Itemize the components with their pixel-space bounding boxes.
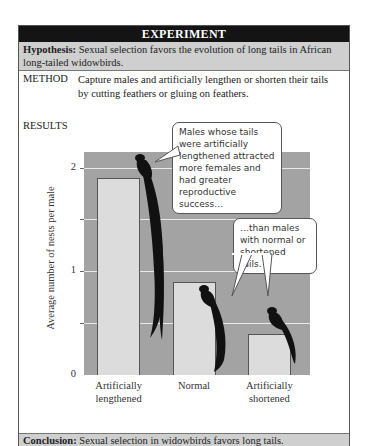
results-label: RESULTS	[23, 120, 68, 131]
callout-normal-shortened: …than males with normal or shortened tai…	[233, 218, 317, 274]
callout-lengthened: Males whose tails were artificially leng…	[172, 122, 282, 214]
hypothesis-box: Hypothesis: Sexual selection favors the …	[19, 42, 349, 71]
x-tick-label: Artificiallyshortened	[229, 379, 309, 405]
y-tick-label: 2	[62, 161, 76, 172]
x-tick-label: Artificiallylengthened	[79, 379, 159, 405]
y-tick-mark	[80, 168, 84, 169]
bar-normal	[173, 282, 216, 375]
y-tick-label: 1	[62, 264, 76, 275]
y-tick-mark	[80, 323, 84, 324]
y-tick-mark	[80, 219, 84, 220]
method-label: METHOD	[23, 73, 68, 84]
bar-artificially-shortened	[248, 334, 291, 375]
figure-title: EXPERIMENT	[19, 26, 349, 42]
hypothesis-label: Hypothesis:	[23, 44, 76, 55]
y-tick-mark	[80, 271, 84, 272]
conclusion-box: Conclusion: Sexual selection in widowbir…	[19, 433, 349, 446]
y-tick-label: 0	[62, 368, 76, 379]
bar-artificially-lengthened	[97, 178, 140, 375]
x-tick-label: Normal	[154, 379, 234, 405]
y-axis-label: Average number of nests per male	[45, 186, 56, 330]
conclusion-text: Sexual selection in widowbirds favors lo…	[79, 435, 283, 446]
method-text: Capture males and artificially lengthen …	[78, 73, 338, 100]
conclusion-label: Conclusion:	[23, 435, 77, 446]
